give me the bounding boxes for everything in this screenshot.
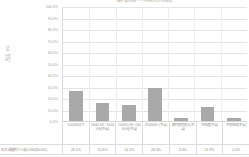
- bar[interactable]: [148, 88, 162, 121]
- table-category-cell: 10000.1元~15000元(不含): [115, 122, 142, 144]
- y-axis-tick-label: 100.0%: [46, 5, 58, 9]
- table-category-cell: 不想告知(不含): [222, 122, 249, 144]
- bar-slot: [142, 7, 168, 121]
- y-axis-tick-labels: 100.0%90.0%80.0%70.0%60.0%50.0%40.0%30.0…: [40, 7, 60, 122]
- bar-slot: [168, 7, 194, 121]
- y-axis-tick-label: 30.0%: [48, 86, 58, 90]
- x-axis-tick-label: 暂时没有收入(不含): [170, 123, 195, 131]
- bar-series: [63, 7, 247, 121]
- bar-slot: [89, 7, 115, 121]
- x-axis-tick-label: 不知道(不含): [201, 123, 218, 127]
- x-axis-tick-label: 10000.1元~15000元(不含): [117, 123, 142, 131]
- data-value-label: 15.6%: [98, 148, 108, 152]
- x-axis-tick-label: 5000.1元~10000元(不含): [90, 123, 115, 131]
- y-axis-title: 占比（%）: [5, 36, 10, 70]
- bar[interactable]: [69, 91, 83, 121]
- bar[interactable]: [96, 103, 110, 121]
- bar-slot: [116, 7, 142, 121]
- y-axis-tick-label: 70.0%: [48, 40, 58, 44]
- x-axis-tick-label: 5000元以下: [68, 123, 85, 127]
- y-axis-tick-label: 50.0%: [48, 63, 58, 67]
- bar-slot: [221, 7, 247, 121]
- bar-slot: [63, 7, 89, 121]
- x-axis-tick-label: 不想告知(不含): [226, 123, 246, 127]
- table-category-cell: 暂时没有收入(不含): [169, 122, 196, 144]
- bar[interactable]: [201, 107, 215, 121]
- data-value-label: 11.9%: [205, 148, 215, 152]
- bar-slot: [194, 7, 220, 121]
- table-category-cell: 不知道(不含): [196, 122, 223, 144]
- bar[interactable]: [227, 118, 241, 121]
- table-category-cell: 5000元以下: [62, 122, 89, 144]
- chart-container: 图3 受访者个人月收入分布情况 占比（%） 100.0%90.0%80.0%70…: [0, 0, 249, 157]
- y-axis-tick-label: 90.0%: [48, 17, 58, 21]
- y-axis-tick-label: 40.0%: [48, 74, 58, 78]
- table-bottom-border: [0, 154, 249, 155]
- x-axis-tick-label: 15000元~(不含): [145, 123, 168, 127]
- chart-title: 图3 受访者个人月收入分布情况: [40, 0, 249, 2]
- data-value-label: 14.3%: [124, 148, 134, 152]
- table-row-categories: 5000元以下5000.1元~10000元(不含)10000.1元~15000元…: [0, 122, 249, 144]
- bar[interactable]: [174, 118, 188, 121]
- table-corner-cell: [0, 122, 62, 144]
- table-category-cell: 15000元~(不含): [142, 122, 169, 144]
- plot-area: [62, 7, 247, 122]
- bar[interactable]: [122, 105, 136, 121]
- data-table: 5000元以下5000.1元~10000元(不含)10000.1元~15000元…: [0, 122, 249, 157]
- y-axis-tick-label: 60.0%: [48, 51, 58, 55]
- y-axis-tick-label: 80.0%: [48, 28, 58, 32]
- y-axis-tick-label: 10.0%: [48, 109, 58, 113]
- table-category-cell: 5000.1元~10000元(不含): [89, 122, 116, 144]
- data-value-label: 28.4%: [151, 148, 161, 152]
- data-value-label: 26.5%: [71, 148, 81, 152]
- y-axis-tick-label: 20.0%: [48, 97, 58, 101]
- data-value-label: 3.0%: [179, 148, 187, 152]
- data-value-label: 2.4%: [232, 148, 240, 152]
